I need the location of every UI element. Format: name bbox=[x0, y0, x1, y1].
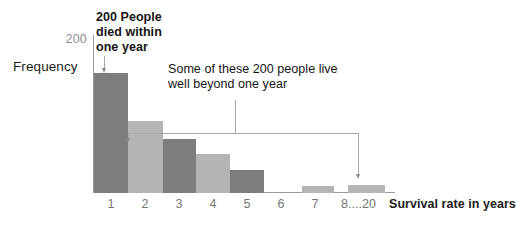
x-tick-2: 2 bbox=[135, 197, 155, 211]
annotation-beyond-left-arrowhead bbox=[126, 138, 130, 143]
bar-year-7 bbox=[302, 186, 334, 193]
bar-year-20 bbox=[348, 185, 385, 193]
bar-year-3 bbox=[163, 139, 196, 193]
x-tick-5: 5 bbox=[237, 197, 257, 211]
annotation-beyond-right-arrowhead bbox=[356, 174, 360, 179]
survival-rate-bar-chart: 200 Frequency Survival rate in years 1 2… bbox=[0, 0, 516, 228]
annotation-died-arrowhead bbox=[102, 68, 106, 73]
x-axis-title: Survival rate in years bbox=[389, 197, 516, 211]
x-tick-1: 1 bbox=[101, 197, 121, 211]
annotation-died-within-one-year: 200 People died within one year bbox=[96, 10, 162, 55]
x-tick-4: 4 bbox=[203, 197, 223, 211]
y-axis-max-label: 200 bbox=[55, 32, 87, 46]
x-tick-20: 20 bbox=[357, 197, 381, 211]
bar-year-5 bbox=[230, 170, 264, 193]
x-tick-7: 7 bbox=[305, 197, 325, 211]
x-tick-6: 6 bbox=[271, 197, 291, 211]
annotation-beyond-bracket bbox=[128, 133, 359, 134]
x-tick-3: 3 bbox=[169, 197, 189, 211]
bar-year-1 bbox=[94, 73, 128, 193]
annotation-beyond-right-arm bbox=[358, 133, 359, 175]
bar-year-2 bbox=[128, 121, 163, 193]
annotation-beyond-stem bbox=[235, 100, 236, 133]
bar-year-4 bbox=[196, 154, 230, 193]
annotation-live-beyond-one-year: Some of these 200 people live well beyon… bbox=[168, 62, 338, 92]
y-axis-title: Frequency bbox=[13, 59, 78, 74]
